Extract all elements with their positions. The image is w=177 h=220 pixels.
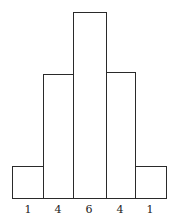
bar-1 bbox=[12, 166, 44, 199]
x-tick-label: 4 bbox=[110, 203, 130, 216]
x-tick-label: 4 bbox=[48, 203, 68, 216]
bar-2 bbox=[43, 74, 74, 199]
bar-4 bbox=[106, 72, 136, 199]
bar-3 bbox=[73, 12, 107, 199]
x-tick-label: 6 bbox=[79, 203, 99, 216]
x-tick-label: 1 bbox=[140, 203, 160, 216]
x-tick-label: 1 bbox=[18, 203, 38, 216]
bar-5 bbox=[135, 166, 167, 199]
